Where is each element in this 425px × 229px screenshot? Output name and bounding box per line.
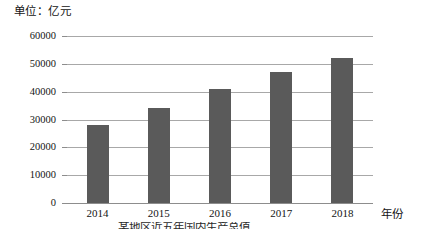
y-tick-mark xyxy=(62,64,67,65)
x-axis-baseline xyxy=(67,203,373,204)
y-tick-mark xyxy=(62,36,67,37)
y-tick-mark xyxy=(62,147,67,148)
bar xyxy=(331,58,353,203)
x-tick-label: 2015 xyxy=(131,208,187,219)
bar xyxy=(209,89,231,203)
bar xyxy=(148,108,170,203)
x-tick-label: 2014 xyxy=(70,208,126,219)
y-tick-label: 0 xyxy=(4,198,56,209)
x-tick-label: 2016 xyxy=(192,208,248,219)
y-tick-label: 50000 xyxy=(4,59,56,70)
y-tick-mark xyxy=(62,203,67,204)
y-tick-label: 60000 xyxy=(4,31,56,42)
y-tick-mark xyxy=(62,92,67,93)
gridline xyxy=(67,64,373,65)
bar xyxy=(87,125,109,203)
plot-area: 6000050000400003000020000100000 20142015… xyxy=(67,36,373,203)
y-tick-label: 10000 xyxy=(4,170,56,181)
gridline xyxy=(67,36,373,37)
y-tick-mark xyxy=(62,120,67,121)
y-tick-mark xyxy=(62,175,67,176)
figure-caption: 某地区近五年国内生产总值 xyxy=(118,222,250,229)
x-axis-title: 年份 xyxy=(381,205,403,221)
bar xyxy=(270,72,292,203)
x-tick-label: 2018 xyxy=(314,208,370,219)
x-tick-label: 2017 xyxy=(253,208,309,219)
y-tick-label: 20000 xyxy=(4,142,56,153)
y-tick-label: 30000 xyxy=(4,115,56,126)
unit-label: 单位：亿元 xyxy=(14,2,71,18)
figure-caption-clip: 某地区近五年国内生产总值 xyxy=(0,222,425,229)
bar-chart: 单位：亿元 6000050000400003000020000100000 20… xyxy=(0,0,425,229)
y-tick-label: 40000 xyxy=(4,87,56,98)
